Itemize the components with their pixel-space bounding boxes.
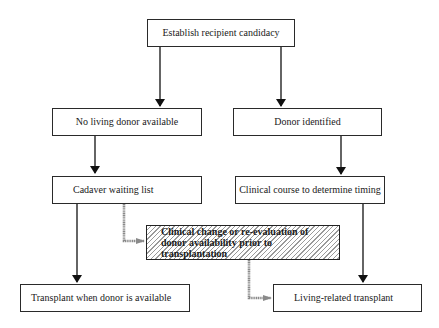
node-label: Clinical change or re-evaluation of dono… xyxy=(161,226,331,259)
flowchart-canvas: Establish recipient candidacy No living … xyxy=(0,0,439,328)
node-label: Living-related transplant xyxy=(294,292,393,304)
node-cadaver-waiting-list: Cadaver waiting list xyxy=(52,176,202,204)
node-label: Cadaver waiting list xyxy=(73,184,154,196)
node-label: Establish recipient candidacy xyxy=(162,27,279,39)
edge-clinical-change-to-living-related xyxy=(249,260,271,298)
node-clinical-course-to-determine-timing: Clinical course to determine timing xyxy=(235,176,385,204)
node-establish-recipient-candidacy: Establish recipient candidacy xyxy=(147,19,295,47)
node-no-living-donor-available: No living donor available xyxy=(52,108,202,136)
edge-cadaver-list-to-clinical-change xyxy=(124,204,144,241)
node-donor-identified: Donor identified xyxy=(233,108,382,136)
node-clinical-change-re-evaluation: Clinical change or re-evaluation of dono… xyxy=(146,225,340,260)
node-label: Donor identified xyxy=(274,116,340,128)
connector-layer xyxy=(0,0,439,328)
node-label: Clinical course to determine timing xyxy=(239,184,381,196)
node-living-related-transplant: Living-related transplant xyxy=(273,284,422,312)
node-label: Transplant when donor is available xyxy=(31,292,171,304)
node-transplant-when-donor-available: Transplant when donor is available xyxy=(20,284,190,312)
node-label: No living donor available xyxy=(76,116,178,128)
